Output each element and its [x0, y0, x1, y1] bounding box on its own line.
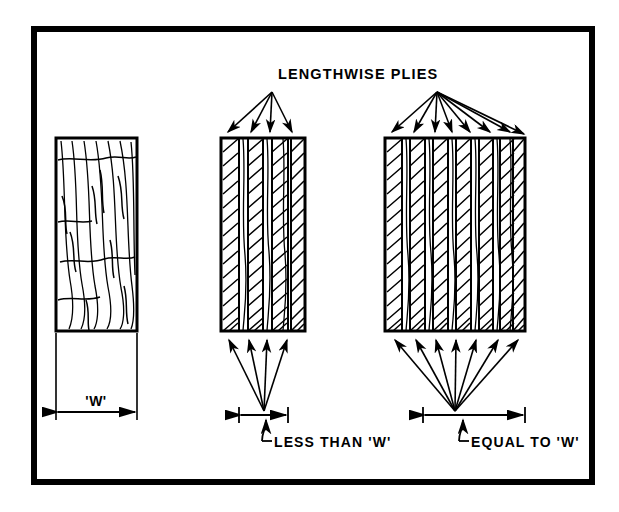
- few-plies-panel: [221, 138, 305, 331]
- many-plies-panel: [385, 138, 525, 331]
- figure-root: LENGTHWISE PLIES: [0, 0, 619, 512]
- diagram-canvas: LENGTHWISE PLIES: [0, 0, 619, 512]
- solid-wood-panel: [56, 138, 137, 331]
- lengthwise-plies-label: LENGTHWISE PLIES: [278, 66, 438, 82]
- less-than-w-label: LESS THAN 'W': [274, 434, 391, 450]
- width-label-w: 'W': [85, 393, 106, 409]
- equal-to-w-label: EQUAL TO 'W': [471, 434, 580, 450]
